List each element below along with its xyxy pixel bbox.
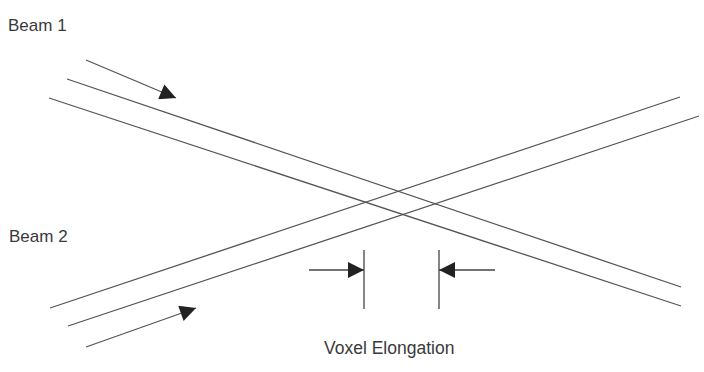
beam-1-label: Beam 1 [8,17,67,34]
beam-1-direction-arrow [86,60,176,98]
beam-2-edge-upper [50,97,680,308]
voxel-elongation-markers [309,250,495,309]
beam-2 [50,97,699,347]
beam-1-edge-upper [67,79,681,287]
beam-crossing-diagram [0,0,704,372]
beam-2-label: Beam 2 [9,228,68,245]
voxel-elongation-label: Voxel Elongation [324,340,454,358]
beam-2-edge-lower [68,116,699,326]
beam-1 [49,60,681,306]
